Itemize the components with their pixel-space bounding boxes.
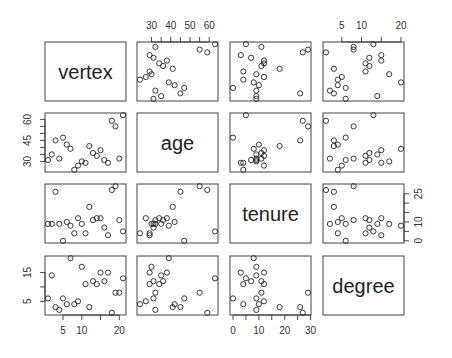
- data-point: [182, 85, 187, 90]
- data-point: [367, 55, 372, 60]
- diagonal-panel-vertex: vertex: [45, 42, 126, 101]
- variable-label: degree: [332, 275, 394, 297]
- data-point: [197, 47, 202, 52]
- tick-label: 5: [339, 20, 345, 31]
- data-point: [98, 148, 103, 153]
- data-point: [379, 160, 384, 165]
- left-axis-age: 304560: [22, 113, 45, 167]
- scatter-panel-degree-vs-vertex: [45, 256, 126, 316]
- data-point: [261, 299, 266, 304]
- data-point: [102, 157, 107, 162]
- data-point: [98, 270, 103, 275]
- data-point: [241, 282, 246, 287]
- data-point: [305, 290, 310, 295]
- data-point: [166, 80, 171, 85]
- data-point: [298, 91, 303, 96]
- data-point: [137, 231, 142, 236]
- data-point: [335, 231, 340, 236]
- data-point: [49, 152, 54, 157]
- data-point: [375, 152, 380, 157]
- data-point: [45, 296, 50, 301]
- data-point: [367, 157, 372, 162]
- data-point: [157, 61, 162, 66]
- tick-label: 30: [22, 155, 33, 167]
- data-point: [151, 279, 156, 284]
- data-point: [170, 66, 175, 71]
- data-point: [117, 156, 122, 161]
- data-point: [331, 138, 336, 143]
- data-point: [178, 189, 183, 194]
- data-point: [94, 153, 99, 158]
- tick-label: 10: [356, 20, 368, 31]
- data-point: [398, 223, 403, 228]
- data-point: [230, 135, 235, 140]
- data-point: [105, 270, 110, 275]
- data-point: [387, 159, 392, 164]
- data-point: [153, 44, 158, 49]
- panel-border: [230, 42, 311, 101]
- data-point: [159, 273, 164, 278]
- data-point: [143, 299, 148, 304]
- data-point: [339, 74, 344, 79]
- data-point: [343, 157, 348, 162]
- data-point: [49, 273, 54, 278]
- data-point: [68, 223, 73, 228]
- data-point: [379, 233, 384, 238]
- data-point: [53, 189, 58, 194]
- data-point: [68, 146, 73, 151]
- data-point: [64, 302, 69, 307]
- data-point: [327, 221, 332, 226]
- data-point: [178, 305, 183, 310]
- data-point: [102, 225, 107, 230]
- data-point: [45, 157, 50, 162]
- tick-label: 5: [22, 298, 33, 304]
- tick-label: 25: [413, 188, 424, 200]
- data-point: [256, 83, 261, 88]
- top-axis-age: 30405060: [146, 20, 215, 42]
- data-point: [87, 204, 92, 209]
- data-point: [57, 156, 62, 161]
- data-point: [261, 270, 266, 275]
- scatter-panel-vertex-vs-degree: [323, 42, 404, 102]
- panel-border: [45, 256, 126, 315]
- scatter-panel-tenure-vs-degree: [323, 184, 404, 244]
- data-point: [343, 135, 348, 140]
- data-point: [300, 118, 305, 123]
- scatter-panel-degree-vs-tenure: [230, 256, 311, 316]
- scatter-panel-age-vs-degree: [323, 113, 404, 173]
- data-point: [323, 50, 328, 55]
- data-point: [298, 305, 303, 310]
- data-point: [105, 233, 110, 238]
- data-point: [72, 231, 77, 236]
- data-point: [238, 53, 243, 58]
- data-point: [172, 83, 177, 88]
- data-point: [363, 69, 368, 74]
- data-point: [83, 282, 88, 287]
- data-point: [351, 124, 356, 129]
- data-point: [57, 221, 62, 226]
- tick-label: 20: [395, 20, 407, 31]
- data-point: [153, 307, 158, 312]
- tick-label: 0: [230, 325, 236, 336]
- data-point: [102, 279, 107, 284]
- data-point: [387, 72, 392, 77]
- data-point: [79, 221, 84, 226]
- data-point: [254, 273, 259, 278]
- data-point: [371, 229, 376, 234]
- tick-label: 15: [22, 267, 33, 279]
- data-point: [212, 229, 217, 234]
- data-point: [147, 270, 152, 275]
- data-point: [256, 302, 261, 307]
- data-point: [105, 160, 110, 165]
- data-point: [241, 302, 246, 307]
- data-point: [343, 221, 348, 226]
- data-point: [143, 74, 148, 79]
- data-point: [147, 53, 152, 58]
- data-point: [398, 146, 403, 151]
- data-point: [327, 156, 332, 161]
- data-point: [351, 218, 356, 223]
- variable-label: vertex: [58, 61, 112, 83]
- data-point: [323, 187, 328, 192]
- data-point: [178, 91, 183, 96]
- data-point: [230, 85, 235, 90]
